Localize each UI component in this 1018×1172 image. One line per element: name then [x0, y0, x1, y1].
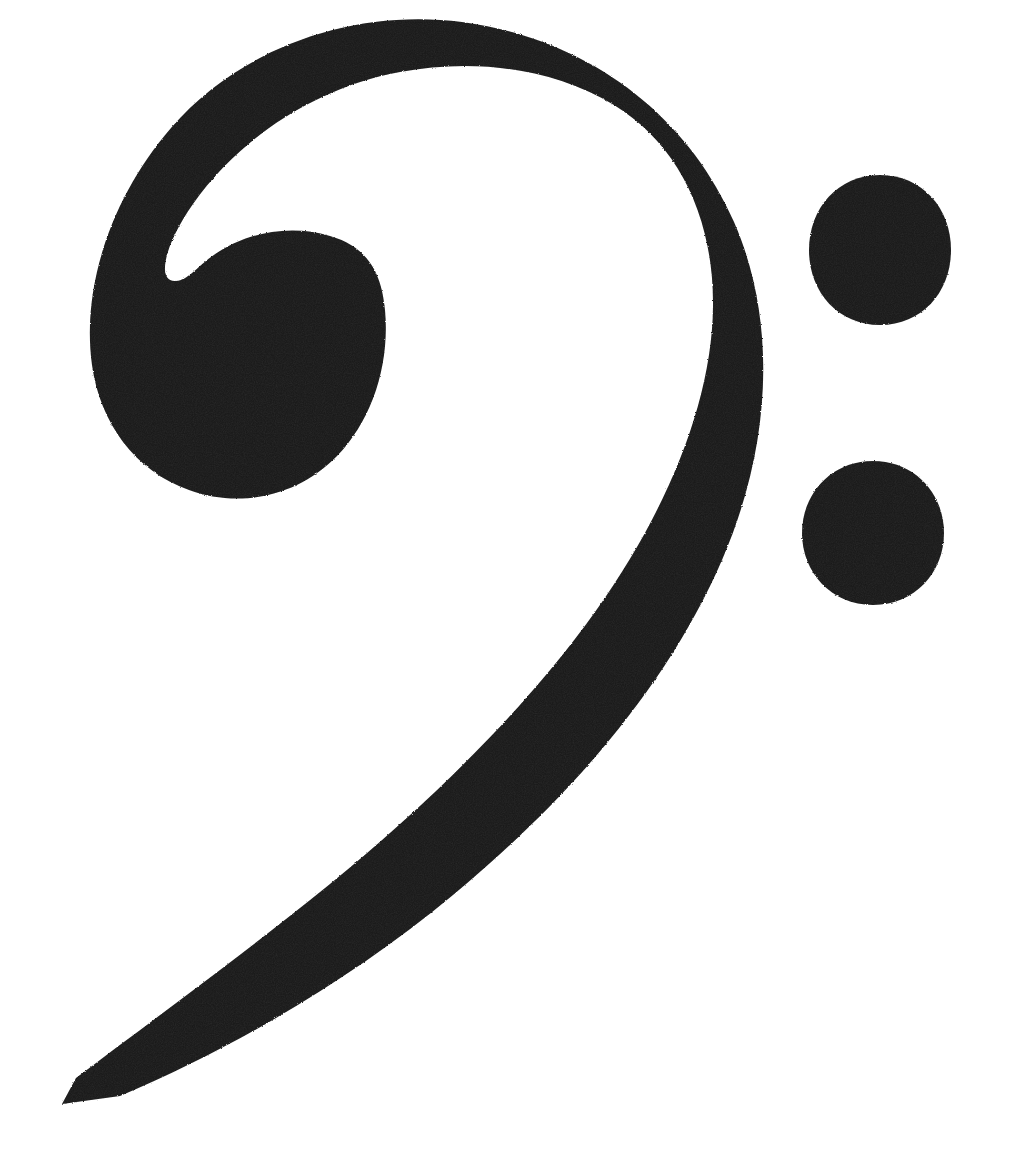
- image-canvas: Bass Clef: [0, 0, 1018, 1172]
- bass-clef-icon: [0, 0, 1018, 1172]
- ink-grain-overlay: [0, 0, 1018, 1172]
